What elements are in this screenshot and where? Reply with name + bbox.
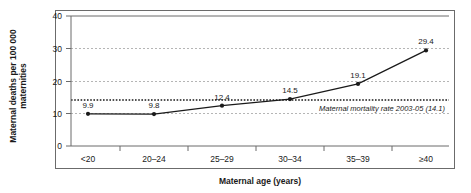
x-axis-title: Maternal age (years) xyxy=(219,176,301,186)
y-axis-title-line1: Maternal deaths per 100 000 xyxy=(8,29,18,143)
data-label-40-plus: 29.4 xyxy=(418,37,434,46)
data-point-30-34 xyxy=(288,97,292,101)
y-tick-label-10: 10 xyxy=(53,109,63,119)
y-axis-ticks xyxy=(66,16,71,146)
data-point-40-plus xyxy=(424,48,428,52)
y-axis-title-line2: maternities xyxy=(18,63,28,109)
y-tick-label-40: 40 xyxy=(53,11,63,21)
data-point-under-20 xyxy=(86,112,90,116)
y-tick-label-20: 20 xyxy=(53,77,63,87)
data-point-35-39 xyxy=(356,82,360,86)
data-label-under-20: 9.9 xyxy=(82,101,94,110)
data-label-25-29: 12.4 xyxy=(214,93,230,102)
data-label-35-39: 19.1 xyxy=(350,71,366,80)
chart-figure: 40 30 20 10 0 <20 20–24 25–29 30–34 35–3… xyxy=(0,0,471,193)
data-point-20-24 xyxy=(152,112,156,116)
x-tick-label-40-plus: ≥40 xyxy=(419,154,433,164)
x-axis-ticks xyxy=(120,146,392,151)
data-label-20-24: 9.8 xyxy=(148,101,160,110)
x-tick-label-25-29: 25–29 xyxy=(210,154,234,164)
maternal-mortality-by-age-chart: 40 30 20 10 0 <20 20–24 25–29 30–34 35–3… xyxy=(0,0,471,193)
reference-line-label: Maternal mortality rate 2003-05 (14.1) xyxy=(319,104,445,113)
y-tick-label-0: 0 xyxy=(57,141,62,151)
data-point-25-29 xyxy=(220,104,224,108)
x-tick-label-20-24: 20–24 xyxy=(142,154,166,164)
x-tick-label-under-20: <20 xyxy=(81,154,96,164)
y-tick-label-30: 30 xyxy=(53,44,63,54)
data-label-30-34: 14.5 xyxy=(282,86,298,95)
x-tick-label-35-39: 35–39 xyxy=(346,154,370,164)
x-tick-label-30-34: 30–34 xyxy=(278,154,302,164)
